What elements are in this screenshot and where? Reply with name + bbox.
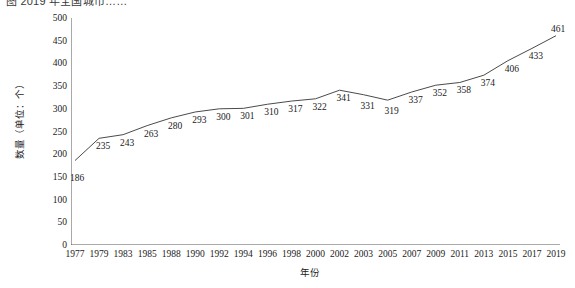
data-point-label: 317 [288, 104, 302, 114]
x-tick-label: 1985 [138, 249, 157, 259]
y-tick-label: 350 [33, 81, 67, 91]
x-tick-label: 1990 [186, 249, 205, 259]
data-point-label: 352 [433, 88, 447, 98]
y-tick-label: 450 [33, 36, 67, 46]
x-tick-label: 2007 [402, 249, 421, 259]
y-tick-label: 0 [33, 240, 67, 250]
data-point-label: 280 [168, 121, 182, 131]
x-tick-label: 1977 [66, 249, 85, 259]
data-point-label: 235 [96, 141, 110, 151]
y-tick-label: 150 [33, 172, 67, 182]
x-axis-title-text: 年份 [300, 268, 320, 278]
x-tick-label: 2015 [498, 249, 517, 259]
x-tick-label: 1979 [90, 249, 109, 259]
data-point-label: 358 [457, 85, 471, 95]
chart-figure: 图 2019 年全国城市…… 数量（单位：个） 0501001502002503… [0, 0, 575, 288]
x-tick-label: 1996 [258, 249, 277, 259]
y-tick-label: 300 [33, 104, 67, 114]
x-tick-label: 2003 [354, 249, 373, 259]
data-point-label: 322 [312, 102, 326, 112]
y-axis-title: 数量（单位：个） [12, 74, 26, 164]
data-point-label: 319 [385, 106, 399, 116]
data-point-label: 243 [120, 138, 134, 148]
x-tick-label: 2013 [474, 249, 493, 259]
data-point-label: 293 [192, 115, 206, 125]
data-point-label: 300 [216, 112, 230, 122]
x-axis-title: 年份 [0, 265, 575, 279]
y-tick-label: 200 [33, 149, 67, 159]
data-point-label: 461 [551, 24, 565, 34]
x-tick-label: 2005 [378, 249, 397, 259]
x-tick-label: 1998 [282, 249, 301, 259]
y-tick-label: 100 [33, 195, 67, 205]
x-tick-label: 1992 [210, 249, 229, 259]
x-tick-label: 2019 [547, 249, 566, 259]
chart-title: 图 2019 年全国城市…… [6, 0, 127, 8]
data-point-label: 433 [529, 51, 543, 61]
x-tick-label: 2002 [330, 249, 349, 259]
x-tick-label: 2011 [450, 249, 469, 259]
data-point-label: 374 [481, 78, 495, 88]
y-axis-tick-labels: 050100150200250300350400450500 [29, 18, 67, 245]
y-tick-label: 400 [33, 58, 67, 68]
data-point-label: 186 [70, 173, 84, 183]
data-point-label: 263 [144, 129, 158, 139]
x-tick-label: 2009 [426, 249, 445, 259]
y-tick-label: 50 [33, 217, 67, 227]
x-tick-label: 1983 [114, 249, 133, 259]
y-tick-label: 250 [33, 127, 67, 137]
x-tick-label: 1994 [234, 249, 253, 259]
x-tick-label: 2017 [522, 249, 541, 259]
data-point-labels: 1862352432632802933003013103173223413313… [71, 18, 560, 245]
y-tick-label: 500 [33, 13, 67, 23]
data-point-label: 301 [240, 111, 254, 121]
data-point-label: 406 [505, 64, 519, 74]
data-point-label: 310 [264, 107, 278, 117]
x-axis-tick-labels: 1977197919831985198819901992199419961998… [71, 249, 560, 263]
data-point-label: 337 [409, 95, 423, 105]
x-tick-label: 2000 [306, 249, 325, 259]
x-tick-label: 1988 [162, 249, 181, 259]
data-point-label: 331 [360, 101, 374, 111]
data-point-label: 341 [336, 93, 350, 103]
